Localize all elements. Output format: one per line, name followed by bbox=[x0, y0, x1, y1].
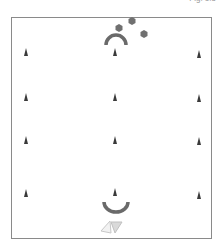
triangle-filled-icon bbox=[111, 222, 122, 233]
ball-icon bbox=[141, 30, 148, 38]
ball-icon bbox=[129, 17, 136, 25]
ball-icon bbox=[116, 24, 123, 32]
cone-icon bbox=[197, 137, 201, 145]
cone-icon bbox=[24, 93, 28, 101]
cone-icon bbox=[24, 48, 28, 56]
cone-icon bbox=[197, 50, 201, 58]
cone-icon bbox=[197, 94, 201, 102]
cone-icon bbox=[24, 189, 28, 197]
cone-icon bbox=[24, 136, 28, 144]
cone-icon bbox=[113, 48, 117, 56]
cone-icon bbox=[113, 136, 117, 144]
drill-diagram bbox=[0, 0, 218, 247]
player-bottom-arc-icon bbox=[104, 202, 128, 212]
cone-icon bbox=[113, 188, 117, 196]
player-top-arc-icon bbox=[106, 35, 126, 45]
cone-icon bbox=[197, 191, 201, 199]
triangle-outline-icon bbox=[101, 221, 111, 233]
cones-group bbox=[24, 48, 201, 199]
cone-icon bbox=[113, 93, 117, 101]
